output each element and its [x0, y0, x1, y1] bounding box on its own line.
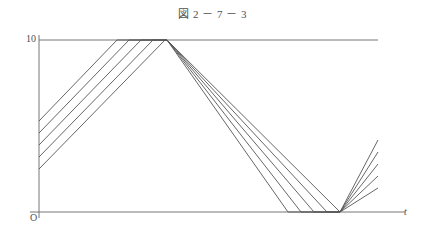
wave-line-1 [39, 40, 378, 212]
figure-container: 図 2 － 7 － 3 10 O t [0, 0, 425, 239]
wave-line-4 [39, 40, 378, 212]
plot-canvas [0, 0, 425, 239]
axis-group [30, 35, 405, 218]
y-axis-tick-label-10: 10 [16, 33, 36, 44]
origin-label: O [30, 212, 37, 223]
wave-line-2 [39, 40, 378, 212]
wave-group [39, 40, 378, 212]
wave-line-5 [39, 40, 378, 212]
wave-line-3 [39, 40, 378, 212]
x-axis-label: t [404, 206, 407, 217]
